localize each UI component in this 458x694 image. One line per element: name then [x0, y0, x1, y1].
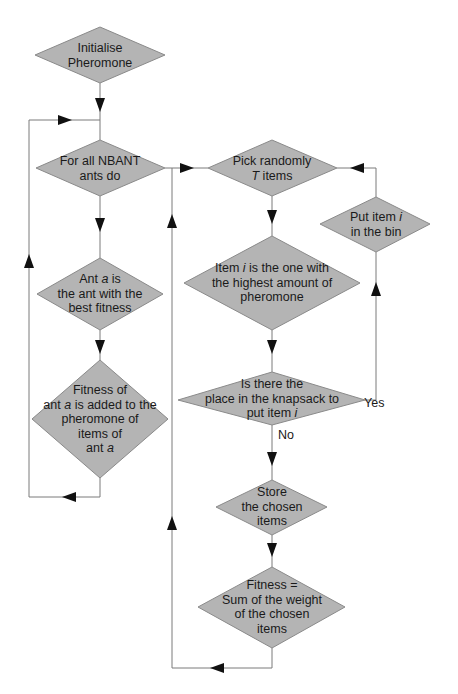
text: Ant	[79, 272, 101, 286]
label-line: the chosen	[241, 500, 302, 515]
text: Item	[215, 261, 243, 275]
label-line: the highest amount of	[212, 276, 332, 291]
label-line: best fitness	[58, 301, 143, 316]
label-line: Fitness =	[222, 578, 322, 593]
node-store-label: Store the chosen items	[241, 485, 302, 529]
label-line: T items	[233, 168, 312, 183]
label-line: Ant a is	[58, 272, 143, 287]
arrow-down-icon	[95, 340, 105, 354]
label-line: in the bin	[350, 224, 402, 239]
label-line: pheromone of	[43, 412, 156, 427]
node-init-label: Initialise Pheromone	[68, 41, 133, 70]
label-line: Pheromone	[68, 55, 133, 70]
label-line: Sum of the weight	[222, 593, 322, 608]
arrow-up-icon	[167, 214, 177, 228]
label-line: place in the knapsack to	[205, 392, 339, 407]
label-line: put item i	[205, 406, 339, 421]
label-line: Is there the	[205, 377, 339, 392]
arrow-down-icon	[267, 543, 277, 557]
variable: i	[399, 210, 402, 224]
arrow-right-icon	[58, 115, 72, 125]
text: is the one with	[246, 261, 329, 275]
edge-label-no: No	[278, 428, 294, 442]
arrow-up-icon	[167, 516, 177, 530]
arrow-down-icon	[267, 210, 277, 224]
arrow-left-icon	[350, 163, 364, 173]
label-line: ant a	[43, 441, 156, 456]
label-line: For all NBANT	[60, 154, 141, 169]
node-fitness-sum-label: Fitness = Sum of the weight of the chose…	[222, 578, 322, 636]
arrow-left-icon	[210, 663, 224, 673]
label-line: of the chosen	[222, 607, 322, 622]
arrow-down-icon	[267, 340, 277, 354]
text: is	[108, 272, 121, 286]
label-line: Pick randomly	[233, 154, 312, 169]
arrow-down-icon	[267, 452, 277, 466]
label-line: the ant with the	[58, 287, 143, 302]
node-for-all-label: For all NBANT ants do	[60, 154, 141, 183]
label-line: Item i is the one with	[212, 261, 332, 276]
node-fitness-added-label: Fitness of ant a is added to the pheromo…	[43, 383, 156, 456]
arrow-down-icon	[95, 218, 105, 232]
text: ant	[86, 441, 107, 455]
label-line: items of	[43, 426, 156, 441]
label-line: Store	[241, 485, 302, 500]
label-line: Put item i	[350, 210, 402, 225]
edge-label-yes: Yes	[364, 396, 384, 410]
node-item-i-label: Item i is the one with the highest amoun…	[212, 261, 332, 305]
text: items	[259, 168, 292, 182]
node-is-there-label: Is there the place in the knapsack to pu…	[205, 377, 339, 421]
arrow-up-icon	[24, 254, 34, 268]
variable: a	[64, 397, 71, 411]
label-line: ants do	[60, 168, 141, 183]
text: put item	[247, 406, 295, 420]
variable: i	[295, 406, 298, 420]
label-line: items	[241, 514, 302, 529]
label-line: Fitness of	[43, 383, 156, 398]
label-line: ant a is added to the	[43, 397, 156, 412]
arrow-down-icon	[95, 98, 105, 112]
node-ant-a-label: Ant a is the ant with the best fitness	[58, 272, 143, 316]
variable: a	[107, 441, 114, 455]
arrow-left-icon	[62, 492, 76, 502]
text: Put item	[350, 210, 399, 224]
label-line: items	[222, 622, 322, 637]
arrow-right-icon	[180, 163, 194, 173]
arrow-up-icon	[371, 282, 381, 296]
node-pick-label: Pick randomly T items	[233, 154, 312, 183]
text: ant	[43, 397, 64, 411]
variable: a	[101, 272, 108, 286]
label-line: Initialise	[68, 41, 133, 56]
text: is added to the	[71, 397, 156, 411]
node-put-bin-label: Put item i in the bin	[350, 210, 402, 239]
label-line: pheromone	[212, 290, 332, 305]
